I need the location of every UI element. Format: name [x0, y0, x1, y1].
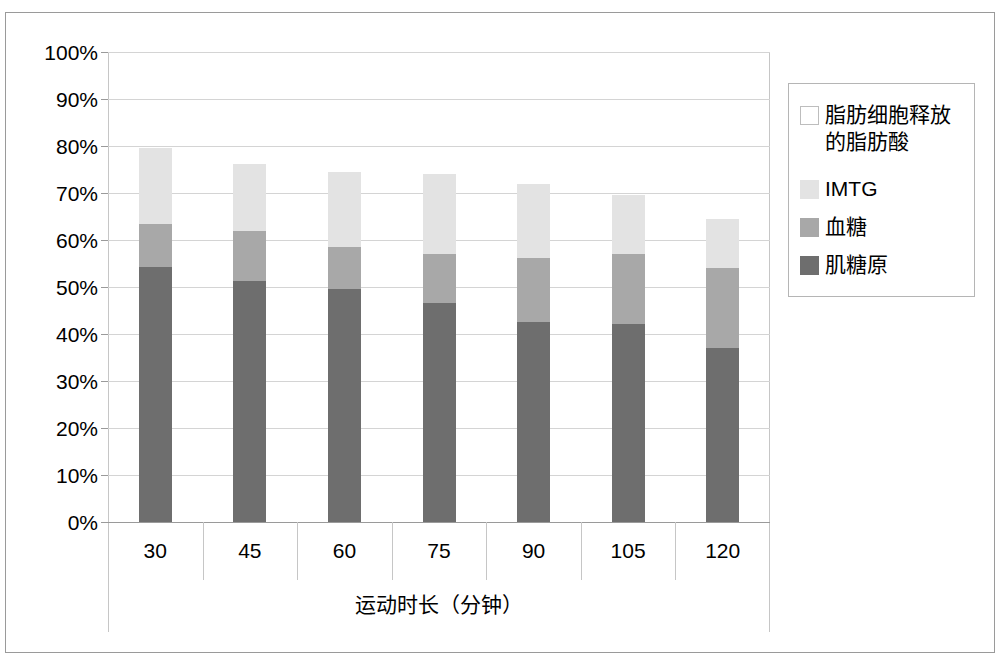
- x-axis-tick-label: 30: [108, 540, 202, 561]
- y-axis-tick-label: 80%: [6, 136, 98, 157]
- chart-container: 0%10%20%30%40%50%60%70%80%90%100% 304560…: [0, 0, 1004, 660]
- bar-stack[interactable]: [706, 52, 739, 522]
- bar-segment[interactable]: [423, 254, 456, 303]
- y-axis-tick-mark: [101, 428, 108, 429]
- y-axis-tick-mark: [101, 475, 108, 476]
- bar-segment[interactable]: [423, 174, 456, 254]
- bar-stack[interactable]: [612, 52, 645, 522]
- bar-segment[interactable]: [517, 258, 550, 322]
- y-axis-tick-label: 20%: [6, 418, 98, 439]
- chart-legend: 脂肪细胞释放的脂肪酸IMTG血糖肌糖原: [788, 83, 975, 297]
- y-axis-tick-mark: [101, 522, 108, 523]
- bar-segment[interactable]: [328, 172, 361, 247]
- y-axis-tick-mark: [101, 193, 108, 194]
- bar-stack[interactable]: [139, 52, 172, 522]
- y-axis-tick-mark: [101, 381, 108, 382]
- legend-swatch-icon: [800, 106, 819, 125]
- y-axis-tick-label: 30%: [6, 371, 98, 392]
- bar-segment[interactable]: [612, 254, 645, 324]
- x-axis-tick-label: 90: [487, 540, 581, 561]
- legend-item-label: 肌糖原: [825, 252, 888, 279]
- x-axis: 3045607590105120: [108, 522, 770, 580]
- bar-segment[interactable]: [706, 268, 739, 348]
- y-axis-tick-mark: [101, 146, 108, 147]
- bar-stack[interactable]: [328, 52, 361, 522]
- y-axis-tick-label: 10%: [6, 465, 98, 486]
- x-axis-tick-label: 60: [297, 540, 391, 561]
- bar-segment[interactable]: [328, 247, 361, 290]
- y-axis-tick-label: 50%: [6, 277, 98, 298]
- x-axis-tick-label: 75: [392, 540, 486, 561]
- bar-segment[interactable]: [517, 184, 550, 259]
- bar-segment[interactable]: [706, 348, 739, 522]
- bar-segment[interactable]: [612, 324, 645, 522]
- y-axis-tick-mark: [101, 52, 108, 53]
- y-axis-tick-mark: [101, 287, 108, 288]
- legend-item-label: 脂肪细胞释放的脂肪酸: [825, 102, 951, 156]
- legend-swatch-icon: [800, 180, 819, 199]
- plot-area: [108, 52, 770, 522]
- bar-segment[interactable]: [233, 164, 266, 231]
- y-axis-tick-label: 70%: [6, 183, 98, 204]
- bar-stack[interactable]: [233, 52, 266, 522]
- legend-item-label: 血糖: [825, 214, 867, 241]
- bar-stack[interactable]: [423, 52, 456, 522]
- y-axis-tick-label: 100%: [6, 42, 98, 63]
- y-axis-tick-label: 40%: [6, 324, 98, 345]
- legend-item[interactable]: 血糖: [800, 214, 867, 241]
- y-axis-tick-label: 90%: [6, 89, 98, 110]
- x-axis-title: 运动时长（分钟）: [108, 588, 770, 618]
- y-axis-tick-mark: [101, 240, 108, 241]
- bar-segment[interactable]: [328, 289, 361, 522]
- legend-item-label: IMTG: [825, 176, 878, 203]
- bar-segment[interactable]: [139, 267, 172, 522]
- bar-segment[interactable]: [139, 148, 172, 223]
- bar-segment[interactable]: [139, 224, 172, 267]
- bar-segment[interactable]: [612, 195, 645, 254]
- bar-stack[interactable]: [517, 52, 550, 522]
- y-axis-tick-label: 60%: [6, 230, 98, 251]
- y-axis-tick-mark: [101, 334, 108, 335]
- x-axis-tick-label: 105: [581, 540, 675, 561]
- bar-segment[interactable]: [233, 231, 266, 281]
- bar-segment[interactable]: [517, 322, 550, 522]
- legend-swatch-icon: [800, 218, 819, 237]
- bar-segment[interactable]: [233, 281, 266, 522]
- legend-item[interactable]: 肌糖原: [800, 252, 888, 279]
- y-axis-tick-mark: [101, 99, 108, 100]
- bar-segment[interactable]: [706, 219, 739, 268]
- bar-segment[interactable]: [423, 303, 456, 522]
- x-axis-tick-label: 120: [676, 540, 770, 561]
- x-axis-tick-label: 45: [203, 540, 297, 561]
- legend-item[interactable]: IMTG: [800, 176, 878, 203]
- legend-swatch-icon: [800, 256, 819, 275]
- y-axis-tick-label: 0%: [6, 512, 98, 533]
- legend-item[interactable]: 脂肪细胞释放的脂肪酸: [800, 102, 951, 156]
